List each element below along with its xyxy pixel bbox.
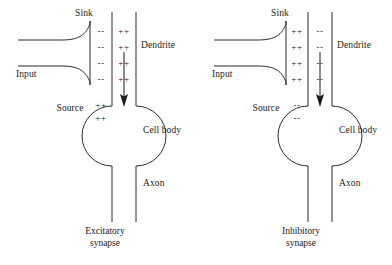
- caption-line-1: Inhibitory: [282, 226, 320, 238]
- charge-cleft-outer-1: ++: [291, 27, 302, 36]
- charge-source-1: ++: [95, 101, 106, 110]
- label-sink: Sink: [271, 8, 289, 19]
- charge-cleft-inner-3: ++: [118, 59, 129, 68]
- label-sink: Sink: [75, 8, 93, 19]
- charge-source-2: --: [293, 114, 300, 123]
- synapse-comparison-figure: Sink Source Input Dendrite Cell body Axo…: [0, 0, 392, 265]
- label-cell-body: Cell body: [143, 125, 181, 136]
- caption-line-2: synapse: [282, 238, 320, 250]
- charge-cleft-outer-3: ++: [291, 59, 302, 68]
- panel-excitatory-synapse: Sink Source Input Dendrite Cell body Axo…: [0, 0, 196, 265]
- charge-cleft-inner-2: --: [316, 43, 323, 52]
- caption-line-1: Excitatory: [85, 226, 125, 238]
- panel-caption: Inhibitory synapse: [282, 226, 320, 249]
- charge-cleft-inner-4: --: [316, 75, 323, 84]
- panel-caption: Excitatory synapse: [85, 226, 125, 249]
- label-source: Source: [253, 103, 280, 114]
- charge-cleft-outer-3: --: [97, 59, 104, 68]
- presynaptic-fiber-upper-outline: [18, 21, 90, 40]
- charge-cleft-outer-2: --: [97, 43, 104, 52]
- charge-cleft-inner-1: --: [316, 27, 323, 36]
- label-axon: Axon: [143, 178, 165, 189]
- panel-inhibitory-synapse: Sink Source Input Dendrite Cell body Axo…: [196, 0, 392, 265]
- label-input: Input: [16, 69, 37, 80]
- charge-source-2: ++: [95, 114, 106, 123]
- charge-cleft-outer-4: ++: [291, 75, 302, 84]
- presynaptic-fiber-upper-outline: [214, 21, 286, 40]
- charge-cleft-inner-4: ++: [118, 75, 129, 84]
- charge-cleft-inner-1: ++: [118, 27, 129, 36]
- charge-cleft-inner-3: --: [316, 59, 323, 68]
- label-dendrite: Dendrite: [337, 40, 371, 51]
- label-input: Input: [212, 69, 233, 80]
- label-axon: Axon: [339, 178, 361, 189]
- charge-cleft-outer-2: ++: [291, 43, 302, 52]
- label-dendrite: Dendrite: [141, 40, 175, 51]
- label-cell-body: Cell body: [339, 125, 377, 136]
- label-source: Source: [57, 103, 84, 114]
- caption-line-2: synapse: [85, 238, 125, 250]
- charge-cleft-inner-2: ++: [118, 43, 129, 52]
- charge-source-1: --: [293, 101, 300, 110]
- charge-cleft-outer-4: --: [97, 75, 104, 84]
- charge-cleft-outer-1: --: [97, 27, 104, 36]
